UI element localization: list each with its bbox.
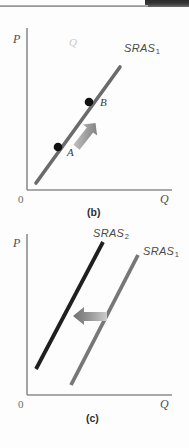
panel-c-curve-label-sras2-sub: 2 xyxy=(125,232,129,241)
panel-b-point-b xyxy=(85,98,94,107)
panel-c-y-axis-label: P xyxy=(13,236,20,251)
panel-b-ghost-mark: Q xyxy=(69,36,77,48)
panel-b-caption: (b) xyxy=(87,206,100,218)
panel-b-point-a xyxy=(54,143,63,152)
panel-c-origin-label: 0 xyxy=(18,398,24,410)
panel-c-curve-label-sras1-sub: 1 xyxy=(175,250,179,259)
panel-c-curve-label-sras1-text: SRAS xyxy=(143,245,174,257)
panel-b-y-axis-label: P xyxy=(13,32,20,47)
panel-c-curve-label-sras1: SRAS1 xyxy=(143,245,179,257)
scan-artifact-bar xyxy=(145,0,189,7)
panel-b-point-label-a: A xyxy=(67,146,74,158)
panel-c-x-axis-label: Q xyxy=(160,397,169,412)
panel-c-curve-label-sras2: SRAS2 xyxy=(93,227,129,239)
panel-b-x-axis-label: Q xyxy=(160,192,169,207)
panel-c-curve-label-sras2-text: SRAS xyxy=(93,227,124,239)
panel-c-curve-sras2 xyxy=(36,242,103,369)
panel-b: P Q 0 SRAS1 A B Q (b) xyxy=(0,14,189,224)
scan-artifact-line xyxy=(0,5,148,7)
panel-b-origin-label: 0 xyxy=(18,193,24,205)
panel-b-curve-sras1 xyxy=(36,67,120,183)
panel-c-caption: (c) xyxy=(86,412,99,424)
panel-b-point-label-b: B xyxy=(100,96,107,108)
figure-page: P Q 0 SRAS1 A B Q (b) P Q 0 xyxy=(0,0,189,448)
panel-c: P Q 0 SRAS2 SRAS1 (c) xyxy=(0,224,189,448)
panel-b-curve-label-sras1: SRAS1 xyxy=(124,42,160,54)
panel-b-curve-label-sras1-text: SRAS xyxy=(124,42,155,54)
panel-b-shift-arrow xyxy=(69,117,102,153)
panel-b-curve-label-sras1-sub: 1 xyxy=(156,47,160,56)
